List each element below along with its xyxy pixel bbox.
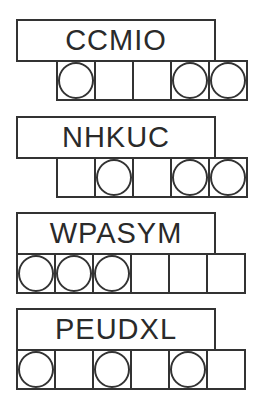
answer-cell[interactable] bbox=[94, 60, 134, 101]
answer-cell[interactable] bbox=[56, 60, 96, 101]
scrambled-word-box: CCMIO bbox=[16, 19, 216, 62]
answer-cell[interactable] bbox=[170, 157, 210, 198]
answer-cells bbox=[56, 60, 248, 101]
answer-cell[interactable] bbox=[56, 157, 96, 198]
scrambled-word-box: WPASYM bbox=[16, 212, 216, 255]
answer-cell[interactable] bbox=[130, 349, 170, 390]
answer-cell[interactable] bbox=[16, 253, 56, 294]
answer-cells bbox=[56, 157, 248, 198]
answer-cell[interactable] bbox=[94, 157, 134, 198]
circle-marker-icon bbox=[18, 351, 54, 388]
scrambled-word: PEUDXL bbox=[55, 315, 177, 344]
answer-cell[interactable] bbox=[208, 60, 248, 101]
answer-cell[interactable] bbox=[92, 253, 132, 294]
answer-cell[interactable] bbox=[130, 253, 170, 294]
circle-marker-icon bbox=[96, 159, 132, 196]
scrambled-word: CCMIO bbox=[65, 26, 167, 55]
answer-cell[interactable] bbox=[168, 349, 208, 390]
circle-marker-icon bbox=[170, 351, 206, 388]
answer-cell[interactable] bbox=[132, 60, 172, 101]
answer-cell[interactable] bbox=[54, 349, 94, 390]
answer-cell[interactable] bbox=[208, 157, 248, 198]
answer-cell[interactable] bbox=[92, 349, 132, 390]
answer-cells bbox=[16, 349, 246, 390]
circle-marker-icon bbox=[172, 159, 208, 196]
circle-marker-icon bbox=[172, 62, 208, 99]
circle-marker-icon bbox=[58, 62, 94, 99]
circle-marker-icon bbox=[18, 255, 54, 292]
scrambled-word: WPASYM bbox=[50, 219, 183, 248]
scrambled-word-box: NHKUC bbox=[16, 116, 216, 159]
circle-marker-icon bbox=[56, 255, 92, 292]
answer-cell[interactable] bbox=[54, 253, 94, 294]
answer-cell[interactable] bbox=[170, 60, 210, 101]
circle-marker-icon bbox=[94, 351, 130, 388]
answer-cell[interactable] bbox=[132, 157, 172, 198]
circle-marker-icon bbox=[210, 159, 246, 196]
answer-cell[interactable] bbox=[206, 349, 246, 390]
circle-marker-icon bbox=[210, 62, 246, 99]
circle-marker-icon bbox=[94, 255, 130, 292]
answer-cells bbox=[16, 253, 246, 294]
answer-cell[interactable] bbox=[16, 349, 56, 390]
scrambled-word: NHKUC bbox=[62, 123, 170, 152]
answer-cell[interactable] bbox=[168, 253, 208, 294]
answer-cell[interactable] bbox=[206, 253, 246, 294]
scrambled-word-box: PEUDXL bbox=[16, 308, 216, 351]
